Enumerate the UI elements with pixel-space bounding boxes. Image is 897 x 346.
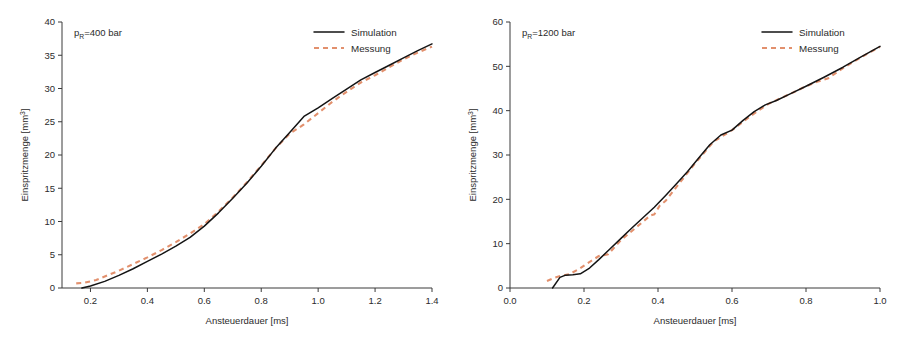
x-axis-title: Ansteuerdauer [ms]: [654, 315, 737, 326]
y-tick-label: 5: [50, 249, 55, 260]
plot-area-right: 0102030405060 0.00.20.40.60.81.0 Ansteue…: [467, 16, 887, 326]
x-axis-title: Ansteuerdauer [ms]: [206, 315, 289, 326]
legend-left: Simulation Messung: [314, 27, 397, 54]
x-tick-label: 0.4: [651, 295, 664, 306]
annotation-rest: =400 bar: [84, 27, 122, 38]
x-tick-label: 1.0: [312, 295, 325, 306]
legend-entry-simulation: Simulation: [314, 27, 397, 38]
y-axis-ticks: [58, 22, 62, 288]
x-tick-label: 0.4: [141, 295, 154, 306]
y-tick-label: 40: [44, 16, 55, 27]
x-tick-label: 0.8: [799, 295, 812, 306]
legend-entry-simulation: Simulation: [762, 27, 845, 38]
series-line-simulation: [553, 46, 880, 288]
chart-panel-left: 0510152025303540 0.20.40.60.81.01.21.4 A…: [0, 0, 448, 346]
y-tick-label: 50: [492, 61, 503, 72]
y-axis-title-tail: ]: [467, 108, 478, 111]
y-tick-label: 60: [492, 16, 503, 27]
y-tick-label: 0: [50, 282, 55, 293]
x-axis-tick-labels: 0.20.40.60.81.01.21.4: [84, 295, 439, 306]
y-tick-label: 30: [44, 83, 55, 94]
y-axis-title-text: Einspritzmenge [mm: [467, 115, 478, 202]
y-axis-tick-labels: 0510152025303540: [44, 16, 55, 293]
plot-area-left: 0510152025303540 0.20.40.60.81.01.21.4 A…: [19, 16, 439, 326]
x-tick-label: 1.2: [368, 295, 381, 306]
chart-panel-right: 0102030405060 0.00.20.40.60.81.0 Ansteue…: [448, 0, 896, 346]
chart-svg-left: 0510152025303540 0.20.40.60.81.01.21.4 A…: [0, 0, 448, 346]
x-axis-tick-labels: 0.00.20.40.60.81.0: [503, 295, 886, 306]
x-tick-label: 0.2: [577, 295, 590, 306]
y-axis-title-tail: ]: [19, 108, 30, 111]
y-tick-label: 40: [492, 105, 503, 116]
y-tick-label: 20: [44, 149, 55, 160]
y-tick-label: 20: [492, 194, 503, 205]
y-tick-label: 15: [44, 183, 55, 194]
legend-label-simulation: Simulation: [351, 27, 397, 38]
y-tick-label: 10: [492, 238, 503, 249]
x-tick-label: 1.4: [425, 295, 438, 306]
y-axis-title: Einspritzmenge [mm3]: [19, 108, 30, 201]
y-tick-label: 0: [498, 282, 503, 293]
x-axis-ticks: [90, 288, 432, 292]
x-tick-label: 0.8: [255, 295, 268, 306]
y-tick-label: 30: [492, 149, 503, 160]
legend-label-simulation: Simulation: [799, 27, 845, 38]
annotation-rest: =1200 bar: [532, 27, 575, 38]
legend-entry-messung: Messung: [762, 43, 839, 54]
y-axis-title-text: Einspritzmenge [mm: [19, 115, 30, 202]
y-axis-tick-labels: 0102030405060: [492, 16, 503, 293]
series-line-simulation: [82, 44, 432, 288]
x-tick-label: 0.6: [198, 295, 211, 306]
legend-entry-messung: Messung: [314, 43, 391, 54]
legend-label-messung: Messung: [799, 43, 839, 54]
x-tick-label: 0.0: [503, 295, 516, 306]
y-tick-label: 25: [44, 116, 55, 127]
figure-two-panel-line-charts: 0510152025303540 0.20.40.60.81.01.21.4 A…: [0, 0, 897, 346]
x-tick-label: 0.6: [725, 295, 738, 306]
annotation-rail-pressure: pR=1200 bar: [522, 27, 575, 40]
y-axis-ticks: [506, 22, 510, 288]
x-tick-label: 0.2: [84, 295, 97, 306]
y-tick-label: 10: [44, 216, 55, 227]
x-axis-ticks: [510, 288, 880, 292]
chart-svg-right: 0102030405060 0.00.20.40.60.81.0 Ansteue…: [448, 0, 896, 346]
annotation-rail-pressure: pR=400 bar: [74, 27, 122, 40]
series-line-messung: [547, 47, 880, 281]
x-tick-label: 1.0: [873, 295, 886, 306]
series-line-messung: [76, 47, 432, 284]
legend-label-messung: Messung: [351, 43, 391, 54]
y-axis-title: Einspritzmenge [mm3]: [467, 108, 478, 201]
y-tick-label: 35: [44, 50, 55, 61]
legend-right: Simulation Messung: [762, 27, 845, 54]
